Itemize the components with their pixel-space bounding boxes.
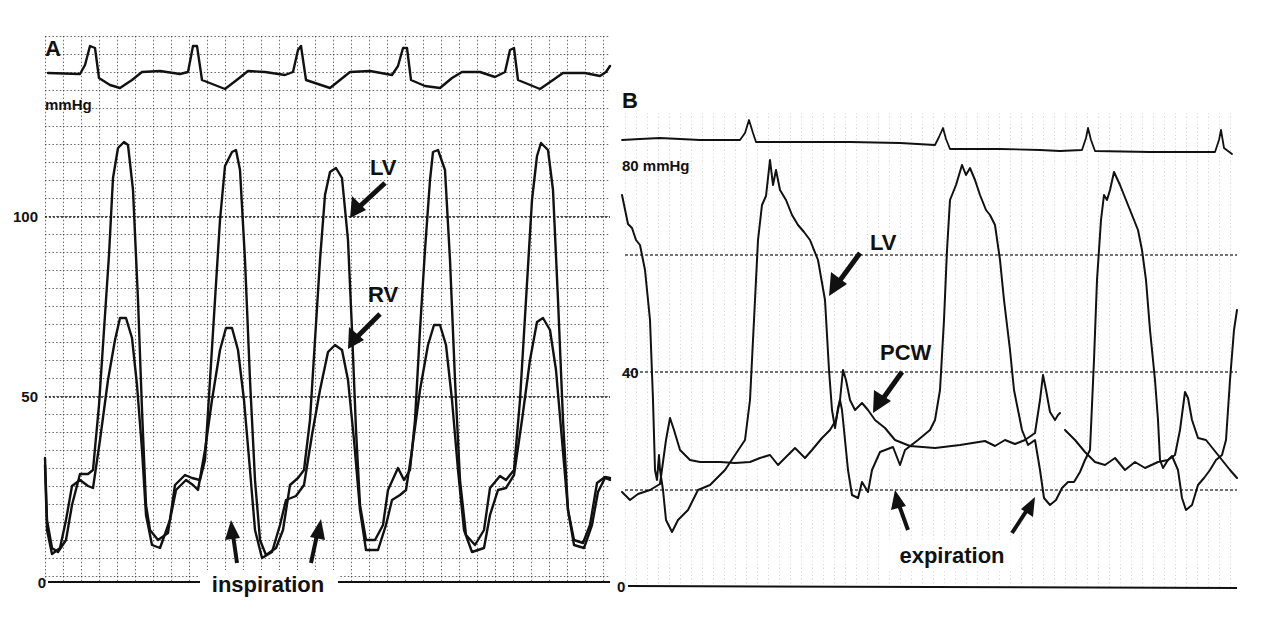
panel-a-tick-0: 0 xyxy=(38,574,46,591)
panel-a-tick-100: 100 xyxy=(13,208,38,225)
panel-b-unit: 80 mmHg xyxy=(622,157,690,174)
panel-a: A mmHg 100 50 0 LV RV xyxy=(13,36,610,600)
panel-a-label: A xyxy=(45,36,61,61)
panel-b-lv-label: LV xyxy=(870,230,897,255)
panel-a-lv-label: LV xyxy=(370,155,397,180)
panel-b-pcw-label: PCW xyxy=(880,340,932,365)
panel-b-label: B xyxy=(622,88,638,113)
panel-b-tick-40: 40 xyxy=(622,364,639,381)
panel-a-phase-label: inspiration xyxy=(212,572,324,597)
panel-b-phase-label: expiration xyxy=(899,543,1004,568)
panel-a-rv-label: RV xyxy=(368,282,398,307)
panel-a-tick-50: 50 xyxy=(21,388,38,405)
figure: A mmHg 100 50 0 LV RV xyxy=(0,0,1268,623)
panel-b: B 80 mmHg 40 0 LV PCW xyxy=(617,88,1237,595)
panel-a-unit: mmHg xyxy=(45,96,92,113)
panel-b-tick-0: 0 xyxy=(617,578,625,595)
